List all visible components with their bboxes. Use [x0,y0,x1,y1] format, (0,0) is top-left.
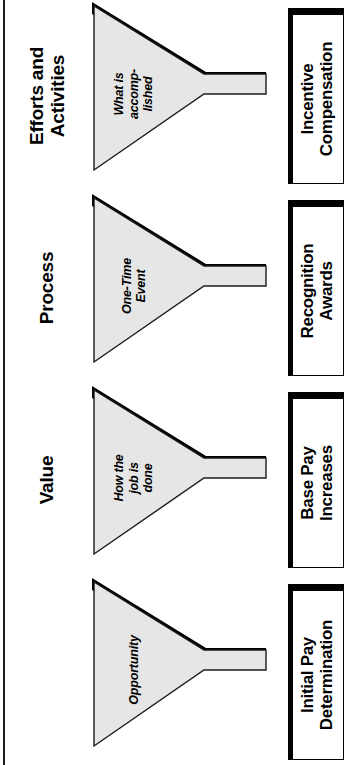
funnel-svg [86,576,272,765]
outcome-box-frame: Recognition Awards [292,206,344,376]
funnel-shape-value: Opportunity [86,576,272,765]
funnel-shape-efforts-and-activities: One-Time Event [86,192,272,384]
funnel-shape-process: How the job is done [86,384,272,576]
funnel-body [94,198,266,362]
funnel-body [94,6,266,170]
outcome-box-label: Recognition Awards [293,207,342,375]
outcome-box-label-text: Base Pay Increases [299,445,336,521]
funnel-body [94,582,266,746]
outcome-box-recognition-awards[interactable]: Recognition Awards [288,200,346,378]
outcome-box-label-text: Incentive Compensation [299,42,336,156]
outcome-box-initial-pay-determination[interactable]: Initial Pay Determination [288,584,346,762]
funnel-svg [86,192,272,384]
diagram-row: Process How the job is done Base Pay Inc… [0,384,350,576]
outcome-box-base-pay-increases[interactable]: Base Pay Increases [288,392,346,570]
outcome-box-frame: Base Pay Increases [292,398,344,568]
outcome-box-label: Base Pay Increases [293,399,342,567]
funnel-shape-results: What is accomp- lished [86,0,272,192]
diagram-canvas: Results What is accomp- lished Incentive… [0,0,350,765]
outcome-box-incentive-compensation[interactable]: Incentive Compensation [288,8,346,186]
diagram-row: Efforts and Activities One-Time Event Re… [0,192,350,384]
funnel-body [94,390,266,554]
outcome-box-frame: Incentive Compensation [292,14,344,184]
diagram-row: Results What is accomp- lished Incentive… [0,0,350,192]
funnel-svg [86,384,272,576]
funnel-svg [86,0,272,192]
outcome-box-label-text: Recognition Awards [299,244,336,339]
diagram-row: Value Opportunity Initial Pay Determinat… [0,576,350,765]
outcome-box-label: Initial Pay Determination [293,591,342,759]
outcome-box-label: Incentive Compensation [293,15,342,183]
outcome-box-label-text: Initial Pay Determination [299,620,336,730]
outcome-box-frame: Initial Pay Determination [292,590,344,760]
